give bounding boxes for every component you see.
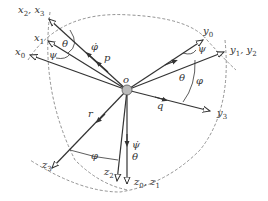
p-arrow (98, 63, 108, 72)
label-y0: y0 (203, 26, 213, 39)
label-z2: z2 (104, 167, 114, 180)
label-y1-y2: y1, y2 (230, 45, 257, 58)
label-origin: o (123, 75, 129, 85)
psi-arc-left (56, 54, 70, 59)
label-y3: y3 (217, 108, 227, 121)
label-z3: z3 (42, 160, 52, 173)
label-psi-dot: ψ̇ (132, 140, 140, 150)
label-theta-left: θ (62, 39, 68, 49)
axis-z3 (52, 90, 127, 168)
origin-point (122, 85, 132, 95)
label-psi-right: ψ (198, 44, 206, 54)
label-theta-bottom: θ (132, 152, 138, 162)
label-theta-right: θ (179, 73, 185, 83)
label-psi-left: ψ (49, 50, 57, 60)
axis-y3 (127, 90, 210, 111)
label-x1: x1 (34, 33, 44, 46)
phi-dot-arrow (88, 54, 98, 63)
label-q: q (157, 101, 163, 111)
euler-angle-diagram: x2, x3 x1 x0 θ ψ φ̇ p o y0 y1, y2 ψ θ φ … (0, 0, 268, 201)
label-x2-x3: x2, x3 (18, 5, 45, 18)
label-r: r (88, 109, 93, 119)
diagram-canvas (0, 0, 268, 201)
label-x0: x0 (15, 47, 25, 60)
label-phi-dot: φ̇ (91, 42, 98, 52)
axis-z2 (117, 90, 127, 181)
r-arrow (98, 114, 105, 121)
label-phi-bottom: φ (91, 151, 98, 161)
label-z0-z1: z0, z1 (134, 177, 160, 190)
label-p: p (104, 53, 110, 63)
dashed-guides (28, 12, 236, 192)
label-phi-right: φ (196, 76, 203, 86)
axis-lines (30, 19, 224, 184)
